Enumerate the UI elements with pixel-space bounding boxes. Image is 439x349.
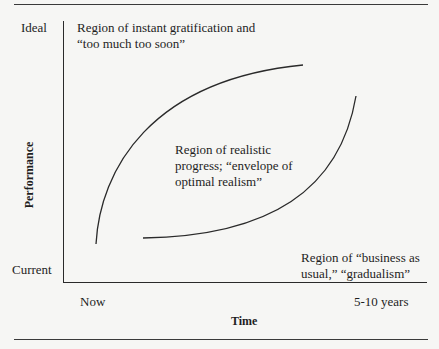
region-business-line2: usual,” “gradualism” — [301, 266, 410, 281]
bottom-rule — [14, 339, 428, 340]
x-tick-5-10-years: 5-10 years — [354, 294, 409, 309]
x-tick-now: Now — [80, 294, 105, 309]
region-realistic-line3: optimal realism” — [175, 174, 262, 189]
region-business-line1: Region of “business as — [301, 250, 420, 265]
region-realistic-line2: progress; “envelope of — [175, 158, 293, 173]
x-axis-label: Time — [231, 314, 257, 329]
region-instant-line1: Region of instant gratification and — [77, 20, 255, 35]
region-realistic-line1: Region of realistic — [175, 142, 271, 157]
region-instant-line2: “too much too soon” — [77, 36, 185, 51]
